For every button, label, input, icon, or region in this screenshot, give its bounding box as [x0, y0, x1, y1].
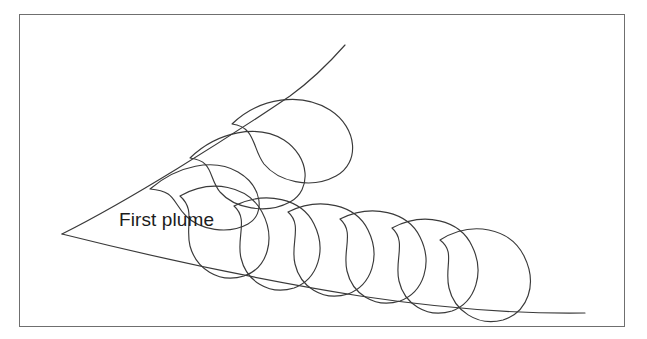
lower-boundary-curve — [62, 234, 585, 313]
plume-lobe-upper-3 — [232, 99, 353, 183]
first-plume-label: First plume — [119, 210, 214, 229]
upper-boundary-curve — [62, 45, 345, 234]
figure-root: First plume — [0, 0, 647, 339]
plume-lobe-lower-2 — [234, 198, 320, 290]
plume-diagram-canvas — [0, 0, 647, 339]
plume-lobe-lower-3 — [288, 204, 374, 296]
lower-plume-lobes — [180, 186, 530, 321]
plume-lobe-lower-4 — [340, 211, 426, 303]
wedge-boundaries — [62, 45, 585, 313]
plume-lobe-upper-2 — [190, 132, 305, 209]
